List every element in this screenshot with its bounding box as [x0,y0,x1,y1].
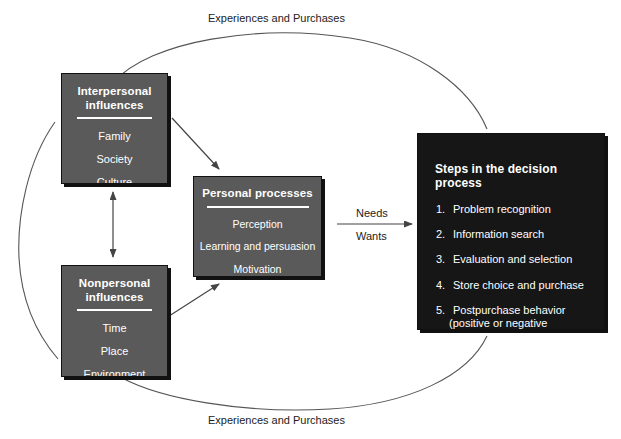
personal-processes-box: Personal processes Perception Learning a… [193,176,322,277]
decision-step-text: Postpurchase behavior [453,304,566,316]
nonpersonal-title-line1: Nonpersonal [79,277,150,289]
bottom-circulation-arc [122,336,487,410]
decision-step-number: 2. [436,228,445,241]
decision-step-text: Evaluation and selection [453,253,572,265]
interpersonal-title-line1: Interpersonal [77,85,151,97]
decision-step: 5. Postpurchase behavior (positive or ne… [418,304,604,330]
consumer-decision-process-diagram: Interpersonal influences Family Society … [0,0,621,439]
personal-processes-divider [207,206,309,208]
arrow-nonpersonal-to-personal [166,284,219,318]
personal-processes-item: Perception [194,219,321,231]
decision-step: 3. Evaluation and selection [418,253,604,266]
interpersonal-title-line2: influences [86,99,144,111]
decision-process-box: Steps in the decision process 1. Problem… [417,133,605,330]
nonpersonal-item: Place [62,345,167,357]
nonpersonal-item: Time [62,322,167,334]
decision-step-number: 3. [436,253,445,266]
decision-step-number: 1. [436,203,445,216]
nonpersonal-title: Nonpersonal influences [62,266,167,304]
personal-processes-item: Learning and persuasion [194,241,321,253]
decision-step-text: Problem recognition [453,203,551,215]
interpersonal-item: Culture [62,176,167,184]
interpersonal-item: Family [62,130,167,142]
wants-label: Wants [356,230,387,242]
decision-step-subtext: (positive or negative experience) [449,317,604,330]
decision-step: 1. Problem recognition [418,203,604,216]
decision-step-text: Information search [453,228,544,240]
needs-label: Needs [356,207,388,219]
left-circulation-arc [19,122,58,359]
bottom-arc-label: Experiences and Purchases [208,414,345,426]
nonpersonal-influences-box: Nonpersonal influences Time Place Enviro… [61,265,168,377]
arrow-interpersonal-to-personal [172,118,219,169]
decision-steps-list: 1. Problem recognition 2. Information se… [418,203,604,330]
top-circulation-arc [113,33,487,129]
interpersonal-influences-box: Interpersonal influences Family Society … [61,73,168,184]
decision-step-number: 5. [436,304,445,317]
decision-step-text: Store choice and purchase [453,279,584,291]
decision-step: 4. Store choice and purchase [418,279,604,292]
personal-processes-item: Motivation [194,264,321,276]
interpersonal-divider [77,117,152,119]
decision-step-number: 4. [436,279,445,292]
nonpersonal-item: Environment [62,368,167,377]
decision-step: 2. Information search [418,228,604,241]
decision-process-title: Steps in the decision process [435,162,604,190]
nonpersonal-title-line2: influences [86,291,144,303]
nonpersonal-divider [77,309,152,311]
personal-processes-title: Personal processes [194,177,321,201]
interpersonal-title: Interpersonal influences [62,74,167,112]
top-arc-label: Experiences and Purchases [208,12,345,24]
interpersonal-item: Society [62,153,167,165]
